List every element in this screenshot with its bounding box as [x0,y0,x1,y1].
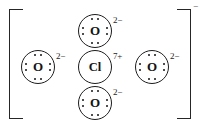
lone-pair-dot [49,69,51,71]
lone-pair-dot [148,78,150,80]
lewis-structure-figure: − O 2− O 2− Cl 7+ O [0,0,200,127]
atom-chlorine-center: Cl 7+ [78,50,112,84]
right-bracket [177,9,191,119]
lone-pair-dot [106,99,108,101]
lone-pair-dot [49,63,51,65]
lone-pair-dot [34,78,36,80]
atom-symbol: O [21,50,55,84]
lone-pair-dot [154,78,156,80]
atom-charge: 7+ [113,52,122,61]
atom-charge: 2− [113,88,122,97]
atom-symbol: O [135,50,169,84]
lone-pair-dot [163,63,165,65]
atom-charge: 2− [170,52,179,61]
atom-oxygen-right: O 2− [135,50,169,84]
atom-symbol: Cl [78,50,112,84]
atom-charge: 2− [56,52,65,61]
lone-pair-dot [163,69,165,71]
lone-pair-dot [106,27,108,29]
lone-pair-dot [97,114,99,116]
atom-oxygen-left: O 2− [21,50,55,84]
atom-oxygen-top: O 2− [78,14,112,48]
lone-pair-dot [40,78,42,80]
lone-pair-dot [97,42,99,44]
atom-symbol: O [78,86,112,120]
atom-oxygen-bottom: O 2− [78,86,112,120]
overall-ion-charge: − [193,2,198,11]
lone-pair-dot [106,105,108,107]
lone-pair-dot [91,42,93,44]
lone-pair-dot [106,33,108,35]
atom-symbol: O [78,14,112,48]
lone-pair-dot [91,114,93,116]
atom-charge: 2− [113,16,122,25]
